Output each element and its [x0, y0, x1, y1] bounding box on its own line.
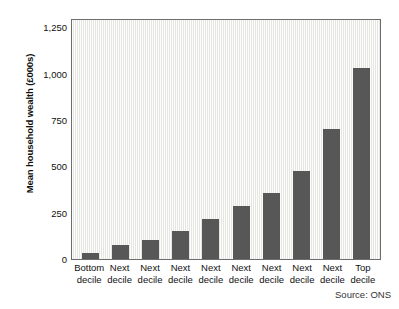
x-axis-tick-label: Nextdecile: [135, 262, 165, 285]
bar-slot: [226, 20, 256, 259]
y-axis-tick-label: 1,000: [30, 70, 67, 80]
x-axis-tick-label-line: decile: [104, 274, 134, 286]
x-axis-tick-label-line: Next: [196, 262, 226, 274]
bar-chart-figure: Mean household wealth (£000s) 0250500750…: [0, 0, 399, 309]
bar-slot: [135, 20, 165, 259]
bar: [172, 231, 189, 259]
x-axis-tick-label-line: decile: [287, 274, 317, 286]
bar-slot: [347, 20, 377, 259]
y-axis-tick-label: 750: [30, 116, 67, 126]
x-axis-tick-label-line: Top: [348, 262, 378, 274]
y-axis-tick-labels: 02505007501,0001,250: [30, 18, 67, 266]
bar-slot: [196, 20, 226, 259]
x-axis-tick-label-line: Next: [287, 262, 317, 274]
x-axis-tick-labels: BottomdecileNextdecileNextdecileNextdeci…: [71, 262, 381, 285]
x-axis-tick-label-line: Next: [226, 262, 256, 274]
bar: [82, 253, 99, 259]
bar-series: [72, 20, 380, 259]
x-axis-tick-label-line: decile: [196, 274, 226, 286]
bar: [293, 171, 310, 259]
x-axis-tick-label: Nextdecile: [196, 262, 226, 285]
bar-slot: [166, 20, 196, 259]
bar: [142, 240, 159, 259]
source-note: Source: ONS: [335, 289, 391, 300]
x-axis-tick-label-line: decile: [74, 274, 104, 286]
x-axis-tick-label-line: Next: [317, 262, 347, 274]
bar-slot: [286, 20, 316, 259]
bar: [112, 245, 129, 259]
y-axis-tick-label: 250: [30, 209, 67, 219]
x-axis-tick-label-line: Next: [135, 262, 165, 274]
bar: [353, 68, 370, 259]
x-axis-tick-label: Topdecile: [348, 262, 378, 285]
bar-slot: [317, 20, 347, 259]
y-axis-tick-label: 500: [30, 162, 67, 172]
x-axis-tick-label-line: decile: [348, 274, 378, 286]
bar: [202, 219, 219, 259]
bar: [233, 206, 250, 259]
x-axis-tick-label-line: Next: [165, 262, 195, 274]
y-axis-tick-label: 0: [30, 255, 67, 265]
x-axis-tick-label: Nextdecile: [317, 262, 347, 285]
x-axis-tick-label-line: decile: [317, 274, 347, 286]
x-axis-tick-label-line: decile: [226, 274, 256, 286]
x-axis-tick-label-line: Next: [256, 262, 286, 274]
y-axis-tick-label: 1,250: [30, 23, 67, 33]
x-axis-tick-label-line: decile: [135, 274, 165, 286]
x-axis-tick-label-line: Bottom: [74, 262, 104, 274]
x-axis-tick-label: Nextdecile: [226, 262, 256, 285]
x-axis-tick-label-line: decile: [165, 274, 195, 286]
x-axis-tick-label: Nextdecile: [165, 262, 195, 285]
bar-slot: [256, 20, 286, 259]
x-axis-tick-label-line: decile: [256, 274, 286, 286]
x-axis-tick-label-line: Next: [104, 262, 134, 274]
bar-slot: [105, 20, 135, 259]
bar-slot: [75, 20, 105, 259]
bar: [323, 129, 340, 259]
bar: [263, 193, 280, 259]
x-axis-tick-label: Nextdecile: [287, 262, 317, 285]
x-axis-tick-label: Nextdecile: [256, 262, 286, 285]
x-axis-tick-label: Nextdecile: [104, 262, 134, 285]
plot-area: [71, 19, 381, 260]
x-axis-tick-label: Bottomdecile: [74, 262, 104, 285]
